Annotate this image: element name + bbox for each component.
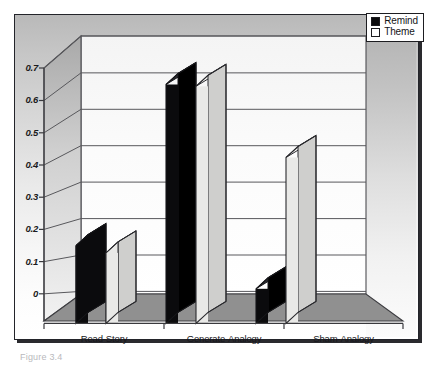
y-tick-0-6: 0.6: [12, 94, 38, 105]
plot-area-3d: [14, 14, 417, 338]
y-tick-0-2: 0.2: [12, 223, 38, 234]
figure-root: 0.7 0.6 0.5 0.4 0.3 0.2 0.1 0 Read-Story…: [0, 0, 441, 370]
filled-square-icon: [371, 17, 380, 26]
y-tick-0-7: 0.7: [12, 62, 38, 73]
x-label-read-story: Read-Story: [44, 333, 164, 344]
y-tick-0-3: 0.3: [12, 191, 38, 202]
legend-entry-theme: Theme: [371, 27, 418, 38]
y-tick-0: 0: [12, 288, 38, 299]
bar-theme-generate-analogy[interactable]: [196, 64, 226, 323]
x-label-generate-analogy: Generate-Analogy: [164, 333, 284, 344]
chart-canvas: [14, 14, 417, 338]
legend-label-theme: Theme: [384, 27, 415, 38]
figure-caption: Figure 3.4: [20, 352, 220, 366]
chart-legend: Remind Theme: [366, 13, 424, 42]
y-tick-0-1: 0.1: [12, 256, 38, 267]
bar-remind-generate-analogy[interactable]: [166, 63, 196, 324]
bar-theme-sham-analogy[interactable]: [286, 136, 316, 324]
y-axis-spine: [39, 68, 44, 321]
x-label-sham-analogy: Sham-Analogy: [284, 333, 403, 344]
bar-group-generate-analogy: [166, 63, 226, 324]
hollow-square-icon: [371, 28, 380, 37]
y-tick-0-4: 0.4: [12, 159, 38, 170]
y-tick-0-5: 0.5: [12, 127, 38, 138]
plot-left-wall: [44, 36, 81, 321]
x-axis-baseline: [44, 323, 403, 329]
